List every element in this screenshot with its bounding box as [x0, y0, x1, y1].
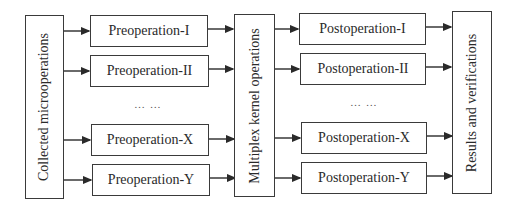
- postoperation-x-box: Postoperation-X: [301, 122, 427, 154]
- preoperation-y-label: Preoperation-Y: [108, 172, 194, 188]
- preoperation-x-box: Preoperation-X: [91, 124, 209, 156]
- postoperation-ellipsis: … …: [350, 96, 378, 108]
- preoperation-ii-box: Preoperation-II: [90, 55, 209, 87]
- postoperation-i-box: Postoperation-I: [299, 13, 426, 45]
- preoperation-ellipsis: … …: [134, 98, 162, 110]
- multiplex-kernel-operations-label: Multiplex kernel operations: [247, 28, 263, 184]
- postoperation-ii-label: Postoperation-II: [318, 61, 409, 77]
- postoperation-y-label: Postoperation-Y: [318, 170, 410, 186]
- preoperation-x-label: Preoperation-X: [107, 132, 193, 148]
- results-and-verifications-box: Results and verifications: [452, 11, 492, 194]
- preoperation-y-box: Preoperation-Y: [92, 164, 210, 196]
- preoperation-i-label: Preoperation-I: [109, 23, 190, 39]
- collected-microoperations-box: Collected microoperations: [25, 15, 64, 199]
- multiplex-kernel-operations-box: Multiplex kernel operations: [234, 14, 275, 197]
- results-and-verifications-label: Results and verifications: [464, 33, 480, 171]
- postoperation-y-box: Postoperation-Y: [301, 162, 427, 194]
- postoperation-x-label: Postoperation-X: [318, 130, 410, 146]
- postoperation-i-label: Postoperation-I: [319, 21, 405, 37]
- preoperation-ii-label: Preoperation-II: [107, 63, 193, 79]
- postoperation-ii-box: Postoperation-II: [300, 53, 426, 85]
- collected-microoperations-label: Collected microoperations: [37, 33, 53, 181]
- preoperation-i-box: Preoperation-I: [90, 15, 208, 47]
